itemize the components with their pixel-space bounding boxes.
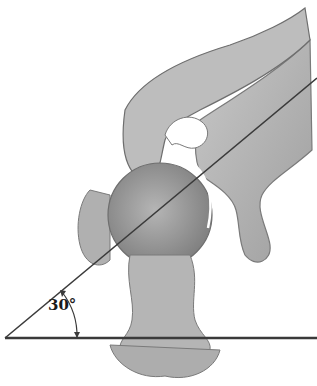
condyles	[110, 345, 220, 378]
humeral-shaft	[120, 255, 210, 350]
shoulder-illustration	[0, 0, 317, 386]
angle-label: 30°	[48, 296, 76, 314]
diagram-canvas: 30°	[0, 0, 317, 386]
